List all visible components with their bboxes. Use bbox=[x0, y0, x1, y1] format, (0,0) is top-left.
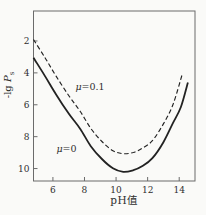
y-tick-label: 6 bbox=[24, 100, 30, 110]
x-tick-label: 6 bbox=[50, 185, 56, 195]
y-tick-label: 8 bbox=[24, 132, 30, 142]
series-label-value: =0 bbox=[63, 142, 77, 153]
x-tick-label: 14 bbox=[173, 185, 185, 195]
solubility-chart: 68101214246810 bbox=[0, 0, 206, 215]
y-tick-label: 4 bbox=[24, 68, 30, 78]
y-axis-title-symbol: P bbox=[2, 75, 13, 82]
y-tick-label: 10 bbox=[18, 164, 30, 174]
x-axis-title: pH值 bbox=[110, 192, 137, 207]
x-tick-label: 12 bbox=[142, 185, 153, 195]
x-tick-label: 8 bbox=[82, 185, 88, 195]
y-tick-label: 2 bbox=[24, 36, 30, 46]
y-axis-title: -lg Ps bbox=[2, 72, 16, 99]
series-label-mu-0.1: μ=0.1 bbox=[75, 80, 104, 91]
series-line-mu-0.1 bbox=[34, 40, 183, 154]
y-axis-title-subscript: s bbox=[8, 72, 16, 76]
series-label-mu-0: μ=0 bbox=[56, 142, 76, 153]
y-axis-title-prefix: -lg bbox=[2, 82, 13, 98]
series-label-value: =0.1 bbox=[82, 80, 105, 91]
series-line-mu-0 bbox=[34, 58, 188, 172]
solubility-vs-ph-figure: 68101214246810 -lg Ps pH值 μ=0.1 μ=0 bbox=[0, 0, 206, 215]
